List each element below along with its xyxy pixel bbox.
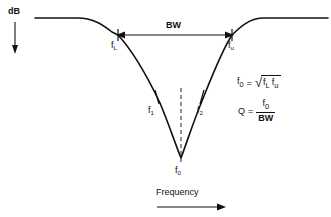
lower-cutoff-label: fL <box>111 41 117 50</box>
f0-formula-equals: = <box>247 78 252 88</box>
db-axis-arrow <box>12 22 18 54</box>
f0-formula-radicand: fLfu <box>261 75 281 90</box>
center-frequency-formula: f0 = √ fLfu <box>237 75 281 90</box>
bandwidth-arrow <box>116 32 234 39</box>
fl-subscript: L <box>114 44 117 51</box>
q-formula-equals: = <box>248 106 253 116</box>
center-frequency-label: f0 <box>175 166 181 175</box>
q-formula-denominator: BW <box>256 112 275 123</box>
radicand-b: fu <box>272 77 279 87</box>
bandwidth-label: BW <box>166 21 181 30</box>
f2-subscript: 2 <box>200 109 203 116</box>
fu-subscript: u <box>231 44 234 51</box>
db-axis-label: dB <box>8 7 20 16</box>
f1-subscript: 1 <box>151 109 154 116</box>
f0-subscript: 0 <box>178 169 181 176</box>
q-formula-lhs: Q <box>238 106 245 116</box>
q-formula-numerator: f0 <box>260 99 271 112</box>
upper-cutoff-label: fu <box>228 41 234 50</box>
frequency-axis-label: Frequency <box>156 188 199 197</box>
frequency-axis-arrow <box>157 204 226 211</box>
f1-tick <box>155 90 159 104</box>
quality-factor-formula: Q = f0 BW <box>238 99 275 123</box>
notch-filter-response-figure <box>0 0 331 217</box>
f1-label: f1 <box>148 106 154 115</box>
radicand-a: fL <box>263 77 270 87</box>
q-formula-fraction: f0 BW <box>256 99 275 123</box>
f2-label: f2 <box>197 106 203 115</box>
f0-formula-lhs: f0 <box>237 76 244 89</box>
